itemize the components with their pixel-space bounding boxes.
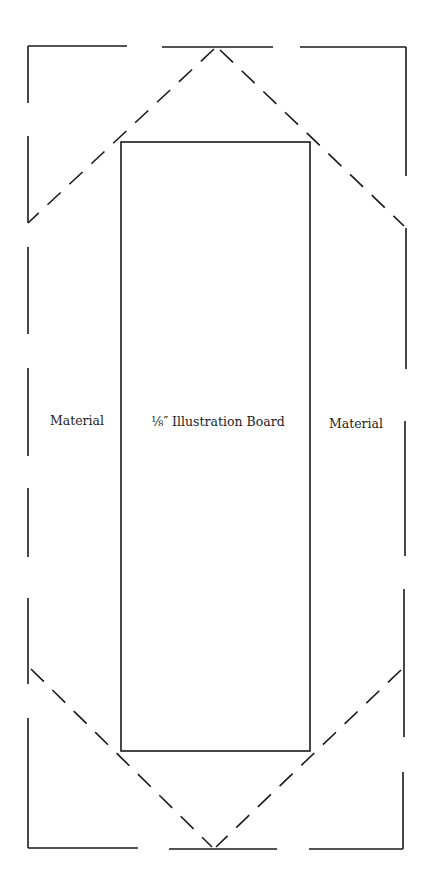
- top-fold-lines: [28, 49, 404, 226]
- outer-frame-top: [28, 46, 406, 47]
- illustration-board-rect: [121, 142, 310, 751]
- outer-frame-right: [403, 47, 406, 849]
- bottom-fold-lines: [31, 669, 401, 847]
- pattern-diagram: [0, 0, 429, 893]
- illustration-board-label: ⅛″ Illustration Board: [151, 414, 284, 429]
- left-material-label: Material: [50, 413, 104, 428]
- outer-frame-bottom: [28, 848, 403, 849]
- right-material-label: Material: [329, 416, 383, 431]
